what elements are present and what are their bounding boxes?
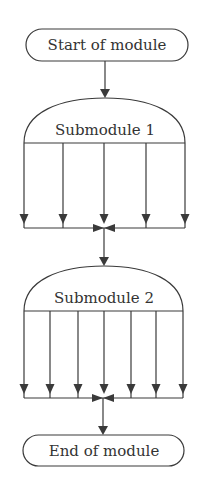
module-flowchart: Start of module Submodule 1 [0,0,201,496]
arrow-down-icon [100,384,109,394]
arrow-down-icon [100,89,110,98]
arrow-submodule-1-to-submodule-2 [99,228,109,266]
submodule-1-label: Submodule 1 [55,121,155,139]
submodule-1: Submodule 1 [20,98,190,232]
arrow-down-icon [98,426,108,435]
start-terminal-label: Start of module [48,36,167,54]
arrow-down-icon [99,257,109,266]
submodule-1-branches [20,143,190,224]
arrow-left-icon [104,224,115,232]
arrow-right-icon [92,394,103,402]
arrow-submodule-2-to-end [98,398,108,435]
submodule-2: Submodule 2 [20,266,188,402]
arrow-down-icon [100,214,109,224]
arrow-right-icon [93,224,104,232]
submodule-2-branches [20,311,188,394]
arrow-left-icon [103,394,114,402]
submodule-2-label: Submodule 2 [54,289,154,307]
arrow-start-to-submodule-1 [100,61,110,98]
start-terminal: Start of module [26,29,188,61]
end-terminal: End of module [23,435,184,466]
end-terminal-label: End of module [49,442,160,460]
